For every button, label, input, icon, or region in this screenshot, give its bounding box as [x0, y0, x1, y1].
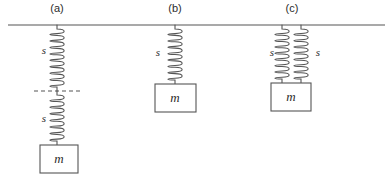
spring-mass-figure: (a)ssm(b)sm(c)ssm	[0, 0, 391, 180]
panel-a-mass-label: m	[54, 151, 63, 167]
panel-c-mass-label: m	[286, 89, 295, 105]
panel-c-right-spring-label: s	[316, 46, 320, 58]
panel-a-upper-spring-label: s	[42, 44, 46, 56]
panel-a-lower-spring	[50, 91, 64, 145]
panel-b-mass-label: m	[170, 90, 179, 106]
panel-b-single-spring	[168, 25, 182, 84]
panel-c-left-spring-label: s	[270, 46, 274, 58]
panel-a-lower-spring-label: s	[42, 112, 46, 124]
panel-c-left-spring	[275, 25, 289, 83]
panel-a-upper-spring	[50, 25, 64, 91]
panel-b-single-spring-label: s	[156, 46, 160, 58]
panel-caption-a: (a)	[50, 2, 63, 14]
panel-c-right-spring	[294, 25, 308, 83]
panel-caption-b: (b)	[168, 2, 181, 14]
panel-caption-c: (c)	[286, 2, 299, 14]
